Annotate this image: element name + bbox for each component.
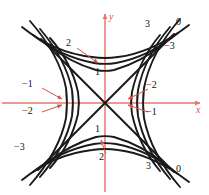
leader-arrow-left-neg2 (42, 105, 62, 112)
contour-label-right-neg1: −1 (146, 107, 157, 117)
contour-label-upper-right-neg3: −3 (164, 41, 175, 51)
contour-label-bottom-2: 2 (99, 152, 104, 162)
contour-label-left-neg1: −1 (22, 79, 33, 89)
x-axis-label: x (196, 105, 200, 115)
contour-label-right-neg2: −2 (146, 80, 157, 90)
contour-label-lower-right-0: 0 (176, 164, 181, 174)
contour-label-left-neg2: −2 (22, 106, 33, 116)
y-axis-label: y (109, 12, 113, 22)
contour-label-upper-right-3: 3 (145, 19, 150, 29)
contour-label-lower-right-3: 3 (146, 161, 151, 171)
contour-label-upper-right-0: 0 (176, 17, 181, 27)
contour-label-bottom-1: 1 (95, 124, 100, 134)
contour-label-top-1: 1 (95, 67, 100, 77)
leader-arrow-left-neg1 (42, 88, 62, 99)
level-curve-figure: 2 1 −1 −2 −2 −1 1 2 3 0 −3 −3 3 0 y x (0, 0, 209, 195)
contour-label-top-2: 2 (66, 38, 71, 48)
contour-label-lower-left-neg3: −3 (14, 142, 25, 152)
